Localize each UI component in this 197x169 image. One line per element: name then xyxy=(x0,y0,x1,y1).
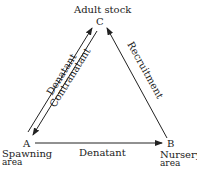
spawning-area-caption: area xyxy=(2,157,22,168)
nursery-area-caption: area xyxy=(160,158,180,169)
edge-label-denatant-ab: Denatant xyxy=(79,147,126,158)
edge-label-recruitment: Recruitment xyxy=(125,40,165,101)
adult-stock-caption: Adult stock xyxy=(74,4,131,15)
node-b: B xyxy=(167,138,174,149)
node-c: C xyxy=(96,16,104,27)
